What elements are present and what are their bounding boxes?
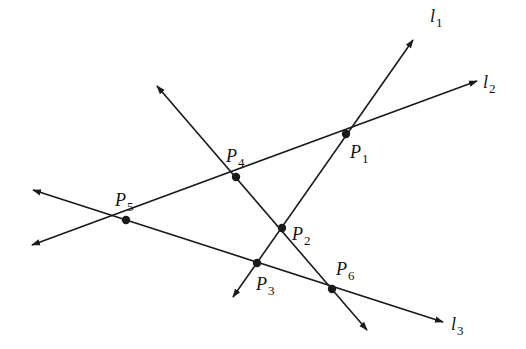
line-l3 <box>33 190 443 322</box>
point-label-p6: P6 <box>335 259 355 283</box>
line-l1 <box>233 40 413 297</box>
lines-intersection-diagram: l1l2l3P1P2P3P4P5P6 <box>0 0 526 349</box>
line-label-l2: l2 <box>483 72 496 96</box>
point-p1 <box>342 130 350 138</box>
point-label-p3: P3 <box>255 274 275 298</box>
point-p3 <box>253 259 261 267</box>
point-p6 <box>328 285 336 293</box>
line-label-l1: l1 <box>430 6 443 30</box>
line-label-l3: l3 <box>451 314 464 338</box>
point-p4 <box>232 173 240 181</box>
point-label-p4: P4 <box>225 146 245 170</box>
line-l2 <box>32 81 477 245</box>
point-label-p1: P1 <box>349 142 369 166</box>
lines-layer <box>32 40 477 330</box>
labels-layer: l1l2l3P1P2P3P4P5P6 <box>114 6 496 338</box>
point-p2 <box>278 224 286 232</box>
point-p5 <box>122 216 130 224</box>
